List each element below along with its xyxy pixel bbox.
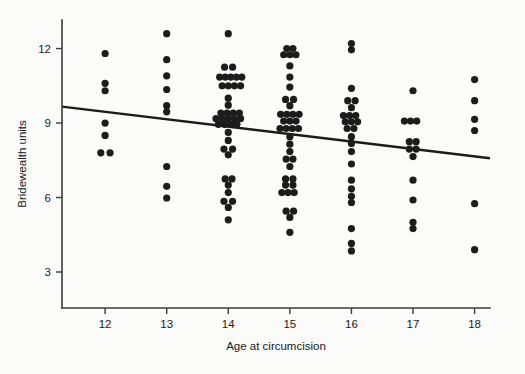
data-point (295, 125, 302, 132)
data-point (225, 189, 232, 196)
data-point (220, 146, 227, 153)
data-point (409, 153, 416, 160)
data-point (406, 146, 413, 153)
data-point (340, 112, 347, 119)
data-point (225, 151, 232, 158)
data-point (292, 51, 299, 58)
data-point (413, 117, 420, 124)
data-point (283, 111, 290, 118)
data-point (295, 111, 302, 118)
x-axis-tick-label: 17 (407, 318, 420, 330)
x-axis-tick-label: 14 (222, 318, 235, 330)
data-point (401, 117, 408, 124)
x-axis-tick-label: 18 (468, 318, 481, 330)
data-point (283, 125, 290, 132)
data-point (407, 117, 414, 124)
data-point (225, 30, 232, 37)
data-point (286, 214, 293, 221)
data-point (221, 121, 228, 128)
data-point (289, 125, 296, 132)
data-point (289, 45, 296, 52)
data-point (282, 182, 289, 189)
data-point (225, 129, 232, 136)
data-point (282, 96, 289, 103)
x-axis-title: Age at circumcision (226, 340, 326, 352)
data-point (471, 246, 478, 253)
data-point (409, 87, 416, 94)
data-point (342, 118, 349, 125)
data-point (225, 216, 232, 223)
data-point (286, 51, 293, 58)
data-point (348, 104, 355, 111)
data-point (280, 117, 287, 124)
data-point (215, 121, 222, 128)
data-point (163, 72, 170, 79)
y-axis-tick-label: 12 (38, 43, 51, 55)
data-point (289, 182, 296, 189)
data-point (471, 116, 478, 123)
data-point (229, 146, 236, 153)
data-point (163, 56, 170, 63)
data-point (289, 175, 296, 182)
data-point (225, 182, 232, 189)
data-point (221, 64, 228, 71)
data-point (163, 183, 170, 190)
data-point (163, 86, 170, 93)
data-point (348, 148, 355, 155)
data-point (282, 175, 289, 182)
data-point (348, 185, 355, 192)
data-point (348, 193, 355, 200)
data-point (471, 97, 478, 104)
x-axis-tick-label: 13 (160, 318, 173, 330)
data-point (286, 163, 293, 170)
y-axis-tick-label: 9 (45, 117, 51, 129)
data-point (289, 155, 296, 162)
data-point (471, 76, 478, 83)
data-point (229, 64, 236, 71)
axes-layer (62, 20, 490, 308)
data-point (225, 137, 232, 144)
data-point (348, 40, 355, 47)
data-point (348, 240, 355, 247)
data-point (228, 175, 235, 182)
data-point (348, 247, 355, 254)
data-point (286, 133, 293, 140)
data-point (292, 117, 299, 124)
data-point (286, 141, 293, 148)
data-point (348, 199, 355, 206)
x-axis-tick-label: 12 (99, 318, 112, 330)
data-point (280, 51, 287, 58)
data-point (231, 82, 238, 89)
data-points-layer (97, 30, 478, 254)
data-point (102, 132, 109, 139)
data-point (283, 45, 290, 52)
data-point (163, 108, 170, 115)
data-point (348, 85, 355, 92)
data-point (409, 225, 416, 232)
data-point (286, 117, 293, 124)
data-point (106, 149, 113, 156)
data-point (229, 198, 236, 205)
data-point (102, 80, 109, 87)
data-point (289, 111, 296, 118)
y-axis-tick-label: 6 (45, 192, 51, 204)
data-point (222, 175, 229, 182)
data-point (348, 140, 355, 147)
data-point (286, 74, 293, 81)
data-point (277, 111, 284, 118)
data-point (348, 118, 355, 125)
data-point (102, 50, 109, 57)
data-point (225, 102, 232, 109)
data-point (348, 46, 355, 53)
data-point (350, 125, 357, 132)
data-point (409, 219, 416, 226)
data-point (354, 118, 361, 125)
data-point (163, 30, 170, 37)
data-point (409, 196, 416, 203)
data-point (283, 208, 290, 215)
data-point (163, 102, 170, 109)
data-point (348, 133, 355, 140)
regression-line-layer (62, 107, 490, 159)
data-point (225, 95, 232, 102)
data-point (233, 121, 240, 128)
